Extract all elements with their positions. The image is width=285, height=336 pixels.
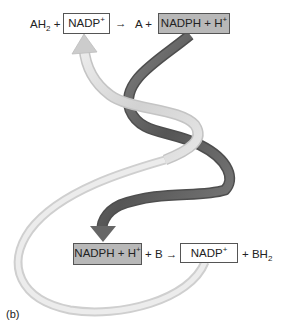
bh-text: BH	[252, 248, 268, 260]
top-reactant-ah2: AH2 +	[30, 17, 60, 31]
bottom-product-bh2: + BH2	[242, 247, 272, 261]
superscript: +	[100, 15, 105, 24]
plus-sign: +	[242, 248, 249, 260]
subscript: 2	[268, 254, 272, 263]
subscript: 2	[46, 24, 50, 33]
bottom-reactant-b: + B →	[145, 247, 177, 261]
superscript: +	[136, 245, 141, 254]
box-text: NADP	[191, 247, 223, 259]
ribbon-diagram	[0, 0, 285, 336]
top-nadp-box: NADP+	[63, 13, 110, 34]
box-text: NADPH + H	[74, 247, 136, 259]
panel-label: (b)	[6, 308, 19, 320]
superscript: +	[223, 245, 228, 254]
top-product-a: A +	[135, 17, 152, 31]
bottom-nadp-box: NADP+	[180, 243, 238, 263]
a-text: A	[135, 18, 142, 30]
box-text: NADPH + H	[161, 17, 223, 29]
bottom-nadph-box: NADPH + H+	[73, 243, 142, 265]
top-nadph-box: NADPH + H+	[158, 13, 230, 34]
b-text: B	[155, 248, 163, 260]
superscript: +	[223, 15, 228, 24]
reaction-arrow: →	[166, 248, 178, 260]
plus-sign: +	[54, 18, 61, 30]
top-reaction-arrow: →	[115, 16, 127, 30]
dark-arrowhead	[90, 226, 116, 242]
ah-text: AH	[30, 18, 46, 30]
box-text: NADP	[68, 17, 100, 29]
light-arrowhead	[72, 34, 97, 54]
plus-sign: +	[145, 248, 152, 260]
plus-sign: +	[145, 18, 152, 30]
